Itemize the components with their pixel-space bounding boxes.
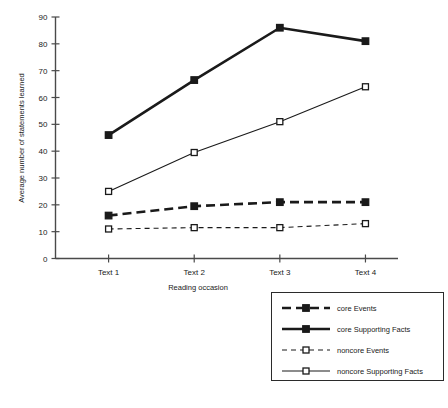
legend-label: noncore Supporting Facts [337,367,423,376]
series-1 [105,24,368,138]
y-tick-label: 40 [39,147,48,156]
legend: core Eventscore Supporting Factsnoncore … [272,293,444,381]
y-axis-label: Average number of statements learned [17,73,26,203]
y-tick-label: 50 [39,120,48,129]
series-line [109,202,366,215]
x-tick-label: Text 2 [184,268,206,277]
y-tick-label: 30 [39,174,48,183]
data-point-marker [105,212,112,219]
data-point-marker [105,132,112,139]
data-point-marker [191,150,197,156]
figure-container: Average number of statements learned 010… [0,0,448,408]
series-layer [105,24,368,232]
y-tick-label: 70 [39,67,48,76]
series-0 [105,199,368,219]
data-point-marker [191,203,198,210]
y-tick-label: 80 [39,40,48,49]
data-point-marker [191,77,198,84]
y-tick-label: 20 [39,201,48,210]
data-point-marker [277,119,283,125]
series-2 [106,221,369,232]
data-point-marker [303,305,310,312]
data-point-marker [362,221,368,227]
y-tick-label: 60 [39,94,48,103]
series-line [109,28,366,135]
data-point-marker [303,326,310,333]
x-axis-label: Reading occasion [168,283,228,292]
y-tick-label: 0 [43,255,48,264]
data-point-marker [277,199,284,206]
data-point-marker [277,24,284,31]
data-point-marker [303,347,309,353]
data-point-marker [277,225,283,231]
legend-label: noncore Events [337,346,389,355]
series-3 [106,84,369,195]
y-axis-ticks: 0102030405060708090 [39,13,60,264]
data-point-marker [362,84,368,90]
series-line [109,87,366,192]
data-point-marker [303,368,309,374]
x-tick-label: Text 4 [355,268,377,277]
data-point-marker [191,225,197,231]
data-point-marker [106,226,112,232]
legend-label: core Events [337,304,377,313]
y-tick-label: 10 [39,228,48,237]
legend-item-3[interactable]: noncore Supporting Facts [282,367,423,376]
data-point-marker [362,38,369,45]
x-tick-label: Text 3 [269,268,291,277]
series-line [109,224,366,229]
data-point-marker [362,199,369,206]
data-point-marker [106,188,112,194]
line-chart: Average number of statements learned 010… [0,0,448,408]
legend-label: core Supporting Facts [337,325,411,334]
y-tick-label: 90 [39,13,48,22]
x-tick-label: Text 1 [98,268,120,277]
